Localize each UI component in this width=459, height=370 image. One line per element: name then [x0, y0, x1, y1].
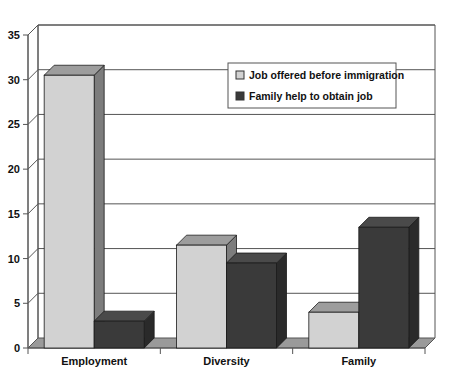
y-tick-label: 0	[14, 342, 20, 354]
bar-top-face	[359, 217, 419, 227]
y-tick-label: 15	[8, 208, 20, 220]
bar-front-face	[44, 75, 94, 348]
y-tick-label: 35	[8, 29, 20, 41]
x-tick-label: Family	[341, 355, 377, 367]
bar-front-face	[227, 263, 277, 348]
bar-side-face	[277, 253, 287, 348]
bar-front-face	[94, 321, 144, 348]
bar-top-face	[177, 235, 237, 245]
chart-legend: Job offered before immigrationFamily hel…	[228, 63, 404, 108]
bar-top-face	[227, 253, 287, 263]
bar-side-face	[409, 217, 419, 348]
legend-item-2[interactable]: Family help to obtain job	[236, 90, 373, 102]
y-tick-label: 20	[8, 163, 20, 175]
bar-top-face	[94, 311, 154, 321]
x-tick-label: Employment	[61, 355, 127, 367]
y-tick-label: 5	[14, 297, 20, 309]
plot-left-wall	[28, 25, 38, 348]
x-tick-label: Diversity	[203, 355, 250, 367]
y-tick-label: 30	[8, 74, 20, 86]
legend-item-1[interactable]: Job offered before immigration	[236, 69, 404, 81]
bar-top-face	[44, 65, 104, 75]
y-tick-label: 10	[8, 253, 20, 265]
y-tick-label: 25	[8, 118, 20, 130]
bar-front-face	[359, 227, 409, 348]
x-axis-ticks: EmploymentDiversityFamily	[28, 348, 425, 367]
bar-diversity-series2	[227, 253, 287, 348]
bar-chart: 05101520253035 EmploymentDiversityFamily…	[0, 0, 459, 370]
bar-front-face	[309, 312, 359, 348]
bar-employment-series1	[44, 65, 104, 348]
bar-side-face	[94, 65, 104, 348]
bar-front-face	[177, 245, 227, 348]
legend-swatch	[236, 92, 244, 100]
legend-label: Family help to obtain job	[249, 90, 373, 102]
legend-swatch	[236, 71, 244, 79]
legend-label: Job offered before immigration	[249, 69, 404, 81]
bar-family-series2	[359, 217, 419, 348]
bar-employment-series2	[94, 311, 154, 348]
chart-canvas: 05101520253035 EmploymentDiversityFamily…	[0, 0, 459, 370]
